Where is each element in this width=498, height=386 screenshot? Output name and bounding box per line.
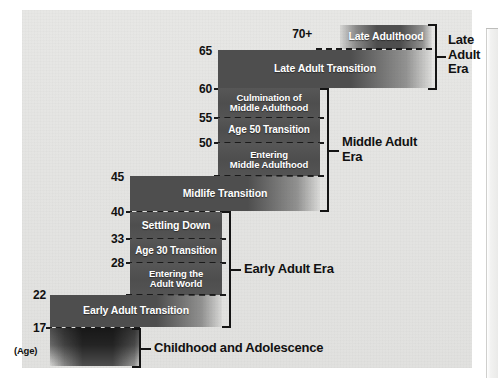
stage-label-entering-middle: Entering Middle Adulthood <box>230 150 308 170</box>
era-label-middle-adult-line2: Era <box>342 150 462 165</box>
stage-label-late-adult-transition: Late Adult Transition <box>274 63 376 74</box>
age-tick-33: 33 <box>92 232 124 246</box>
stage-bar-settling-down[interactable]: Settling Down <box>130 212 222 239</box>
age-tick-28: 28 <box>92 256 124 270</box>
stage-label-age-50-transition: Age 50 Transition <box>228 125 310 136</box>
stage-label-late-adulthood: Late Adulthood <box>348 31 423 42</box>
era-bracket-stem-early-adult <box>231 269 241 271</box>
stage-bar-early-adult-transition[interactable]: Early Adult Transition <box>50 295 222 327</box>
stage-label-entering-adult-world-line2: Adult World <box>150 278 203 289</box>
stage-label-culmination-line2: Middle Adulthood <box>230 102 308 113</box>
age-tick-55: 55 <box>180 111 212 125</box>
age-tick-22: 22 <box>14 288 46 302</box>
age-axis-note: (Age) <box>14 345 37 356</box>
stage-bar-childhood-and-adolescence[interactable] <box>50 328 140 366</box>
era-bracket-stem-late-adult <box>437 56 446 58</box>
era-label-childhood-and-adolescence: Childhood and Adolescence <box>154 341 404 356</box>
stage-bar-midlife-transition[interactable]: Midlife Transition <box>130 176 320 211</box>
facing-page-sliver <box>486 8 498 378</box>
stage-label-culmination: Culmination of Middle Adulthood <box>230 93 308 113</box>
age-tick-45: 45 <box>92 170 124 184</box>
stage-bar-late-adult-transition[interactable]: Late Adult Transition <box>218 50 432 88</box>
stage-label-age-30-transition: Age 30 Transition <box>135 246 217 257</box>
era-label-middle-adult-line1: Middle Adult <box>342 135 462 150</box>
stage-bar-age-50-transition[interactable]: Age 50 Transition <box>218 118 320 143</box>
stage-bar-entering-the-adult-world[interactable]: Entering the Adult World <box>130 263 222 295</box>
diagram-root: Late Adulthood 70+ Late Adult Transition… <box>0 0 498 386</box>
stage-label-midlife-transition: Midlife Transition <box>183 188 268 199</box>
stage-bar-age-30-transition[interactable]: Age 30 Transition <box>130 239 222 263</box>
era-bracket-early-adult <box>222 211 231 328</box>
stage-label-entering-adult-world: Entering the Adult World <box>149 269 203 289</box>
age-tick-60: 60 <box>180 82 212 96</box>
era-bracket-stem-middle-adult <box>329 150 339 152</box>
stage-label-settling-down: Settling Down <box>142 220 211 231</box>
facing-page-sliver-cap <box>486 8 498 29</box>
era-bracket-middle-adult <box>320 88 329 212</box>
stage-bar-entering-middle-adulthood[interactable]: Entering Middle Adulthood <box>218 143 320 176</box>
stage-bar-culmination-of-middle-adulthood[interactable]: Culmination of Middle Adulthood <box>218 88 320 118</box>
era-label-early-adult: Early Adult Era <box>244 262 384 277</box>
age-tick-50: 50 <box>180 136 212 150</box>
stage-label-early-adult-transition: Early Adult Transition <box>83 305 189 316</box>
age-tick-70plus: 70+ <box>268 27 312 41</box>
stage-bar-late-adulthood[interactable]: Late Adulthood <box>340 25 432 49</box>
era-bracket-stem-childhood <box>141 348 151 350</box>
stage-label-entering-middle-line2: Middle Adulthood <box>230 159 308 170</box>
age-tick-65: 65 <box>180 44 212 58</box>
era-bracket-childhood <box>132 328 141 368</box>
era-bracket-late-adult <box>428 24 437 90</box>
age-tick-17: 17 <box>14 321 46 335</box>
age-tick-40: 40 <box>92 205 124 219</box>
era-label-middle-adult: Middle Adult Era <box>342 135 462 164</box>
